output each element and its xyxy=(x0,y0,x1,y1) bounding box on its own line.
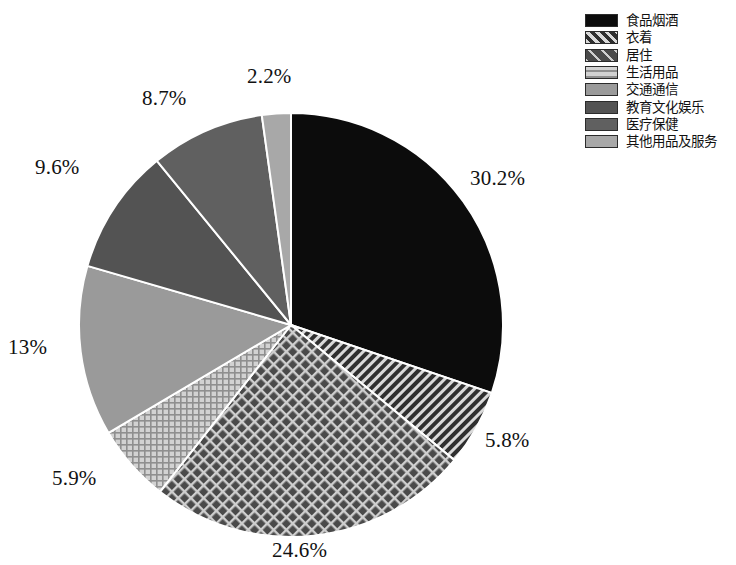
slice-percentage-label-3: 24.6% xyxy=(272,538,327,563)
pie-plot-area: 30.2%5.8%24.6%5.9%13%9.6%8.7%2.2% xyxy=(0,0,580,565)
legend-item-label-8: 其他用品及服务 xyxy=(626,134,717,149)
legend-item-8[interactable]: 其他用品及服务 xyxy=(585,133,735,150)
swatch-solid-mid-gray xyxy=(585,83,618,96)
legend-item-5[interactable]: 交通通信 xyxy=(585,81,735,98)
legend-item-label-1: 食品烟酒 xyxy=(626,13,678,28)
legend-item-label-3: 居住 xyxy=(626,48,652,63)
swatch-diagonal-crosshatch xyxy=(585,49,618,62)
swatch-solid-black xyxy=(585,14,618,27)
legend-item-label-4: 生活用品 xyxy=(626,65,678,80)
legend-item-label-7: 医疗保健 xyxy=(626,117,678,132)
legend-item-label-6: 教育文化娱乐 xyxy=(626,100,704,115)
pie-slices-group xyxy=(79,113,503,537)
swatch-diagonal-stripes xyxy=(585,31,618,44)
legend-item-2[interactable]: 衣着 xyxy=(585,29,735,46)
legend-item-label-5: 交通通信 xyxy=(626,82,678,97)
swatch-fine-grid xyxy=(585,66,618,79)
swatch-solid-light-gray xyxy=(585,135,618,148)
slice-percentage-label-6: 9.6% xyxy=(35,155,80,180)
legend-item-6[interactable]: 教育文化娱乐 xyxy=(585,98,735,115)
slice-percentage-label-1: 30.2% xyxy=(470,166,525,191)
swatch-solid-dark-gray-2 xyxy=(585,118,618,131)
legend-item-3[interactable]: 居住 xyxy=(585,47,735,64)
legend: 食品烟酒衣着居住生活用品交通通信教育文化娱乐医疗保健其他用品及服务 xyxy=(585,12,735,150)
pie-chart-figure: 30.2%5.8%24.6%5.9%13%9.6%8.7%2.2% 食品烟酒衣着… xyxy=(0,0,736,565)
legend-item-7[interactable]: 医疗保健 xyxy=(585,116,735,133)
legend-item-4[interactable]: 生活用品 xyxy=(585,64,735,81)
swatch-solid-dark-gray xyxy=(585,101,618,114)
slice-percentage-label-5: 13% xyxy=(8,335,47,360)
legend-item-label-2: 衣着 xyxy=(626,30,652,45)
slice-percentage-label-4: 5.9% xyxy=(52,466,97,491)
legend-item-1[interactable]: 食品烟酒 xyxy=(585,12,735,29)
slice-percentage-label-7: 8.7% xyxy=(142,86,187,111)
slice-percentage-label-2: 5.8% xyxy=(485,428,530,453)
slice-percentage-label-8: 2.2% xyxy=(247,64,292,89)
